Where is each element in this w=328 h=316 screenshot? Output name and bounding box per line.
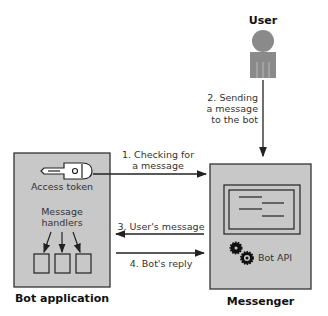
step-3-label: 3. User's message [116, 221, 206, 232]
messenger-box [210, 164, 311, 289]
message-handler-1 [34, 254, 49, 273]
handlers-line2: handlers [14, 217, 110, 228]
message-handler-2 [55, 254, 70, 273]
user-label: User [243, 15, 283, 26]
messenger-label: Messenger [210, 296, 311, 307]
user-icon [250, 30, 276, 78]
bot-application-label: Bot application [14, 293, 110, 304]
message-handlers-label: Message handlers [14, 206, 110, 228]
step-2-line2: a message [188, 103, 258, 114]
bot-api-label: Bot API [258, 252, 298, 263]
step-2-line1: 2. Sending [188, 92, 258, 103]
step-1-line2: a message [118, 160, 198, 171]
access-token-label: Access token [14, 181, 110, 192]
handlers-line1: Message [14, 206, 110, 217]
step-2-line3: to the bot [188, 114, 258, 125]
step-2-label: 2. Sending a message to the bot [188, 92, 258, 125]
message-handler-3 [76, 254, 91, 273]
step-1-line1: 1. Checking for [118, 149, 198, 160]
step-1-label: 1. Checking for a message [118, 149, 198, 171]
step-4-label: 4. Bot's reply [116, 258, 206, 269]
